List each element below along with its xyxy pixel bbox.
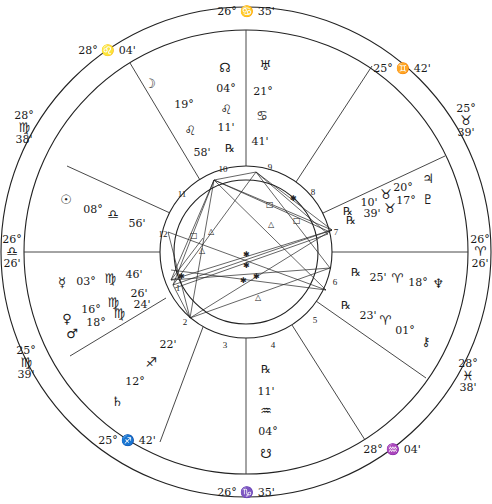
chart-wheel: □ ✱ □ △ □ △ △ ✱ ✱ ✱ ✱ ✱ △ 1 2 3 4 5 6 7 … (0, 0, 492, 504)
saturn-sign-icon: ♐ (145, 357, 157, 368)
chiron-min: 23' (359, 310, 376, 321)
cusp-label-house-10: 26° ♋ 35' (217, 6, 275, 17)
chiron-retro: ℞ (341, 300, 351, 311)
moon-deg: 19° (174, 99, 194, 110)
svg-text:8: 8 (311, 187, 316, 197)
cusp-label-house-9: 28° ♌ 04' (78, 45, 136, 56)
mars-min: 24' (133, 299, 150, 310)
venus-deg: 16° (81, 304, 101, 315)
mercury-deg: 03° (76, 276, 96, 287)
chiron-glyph-icon: ⚷ (421, 336, 431, 347)
svg-text:△: △ (208, 227, 215, 236)
sun-sign-icon: ♎ (107, 209, 119, 220)
cusp-label-house-12: 25°♉39' (456, 103, 476, 139)
moon-glyph-icon: ☽ (144, 78, 156, 89)
sun-glyph-icon: ☉ (60, 194, 72, 205)
mercury-glyph-icon: ☿ (58, 277, 66, 288)
svg-text:1: 1 (176, 283, 181, 293)
svg-text:□: □ (293, 216, 301, 225)
svg-text:✱: ✱ (178, 272, 185, 281)
cusp-label-house-8: 28°♍38' (14, 110, 34, 146)
saturn-min: 22' (159, 339, 176, 350)
svg-text:5: 5 (313, 315, 318, 325)
svg-text:□: □ (190, 231, 198, 240)
svg-text:✱: ✱ (243, 250, 250, 259)
cusp-label-house-5: 25° ♐ 42' (98, 435, 156, 446)
svg-text:✱: ✱ (240, 276, 247, 285)
snode-min: 11' (257, 386, 274, 397)
neptune-deg: 18° (408, 277, 428, 288)
neptune-min: 25' (369, 272, 386, 283)
neptune-sign-icon: ♈ (391, 273, 403, 284)
svg-text:3: 3 (223, 340, 228, 350)
moon-sign-icon: ♌ (184, 125, 196, 136)
cusp-label-house-4: 26° ♑ 35' (217, 487, 275, 498)
neptune-glyph-icon: ♆ (432, 278, 444, 289)
mars-deg: 18° (86, 317, 106, 328)
snode-sign-icon: ♒ (260, 405, 272, 416)
chiron-sign-icon: ♈ (379, 315, 391, 326)
cusp-label-house-6: 25°♍39' (16, 345, 36, 381)
svg-text:□: □ (266, 200, 274, 209)
svg-text:10: 10 (219, 164, 229, 174)
nnode-deg: 04° (216, 83, 236, 94)
jupiter-deg: 20° (393, 182, 413, 193)
svg-text:✱: ✱ (243, 261, 250, 270)
chiron-deg: 01° (395, 325, 415, 336)
cusp-label-house-3: 28° ♒ 04' (363, 444, 421, 455)
nnode-min: 11' (217, 122, 234, 133)
jupiter-glyph-icon: ♃ (422, 173, 434, 184)
nnode-glyph-icon: ☊ (219, 62, 231, 73)
aspect-lines (168, 172, 332, 318)
snode-glyph-icon: ☋ (260, 448, 272, 459)
svg-text:11: 11 (178, 189, 187, 199)
pluto-glyph-icon: ♇ (422, 194, 434, 205)
mercury-min: 46' (125, 269, 142, 280)
sun-min: 56' (128, 218, 145, 229)
saturn-glyph-icon: ♄ (111, 396, 123, 407)
nnode-sign-icon: ♌ (220, 104, 232, 115)
neptune-retro: ℞ (351, 267, 361, 278)
pluto-min: 39' (363, 208, 380, 219)
jupiter-sign-icon: ♉ (380, 189, 392, 200)
svg-text:2: 2 (183, 317, 188, 327)
svg-text:7: 7 (334, 227, 339, 237)
venus-glyph-icon: ♀ (62, 313, 72, 324)
svg-text:6: 6 (333, 277, 338, 287)
svg-text:✱: ✱ (253, 272, 260, 281)
uranus-deg: 21° (253, 86, 273, 97)
svg-text:✱: ✱ (290, 194, 297, 203)
moon-min: 58' (193, 147, 210, 158)
pluto-retro: ℞ (346, 215, 356, 226)
pluto-sign-icon: ♉ (384, 203, 396, 214)
svg-text:9: 9 (268, 162, 273, 172)
svg-text:△: △ (268, 220, 275, 229)
svg-text:△: △ (199, 246, 206, 255)
nnode-retro: ℞ (225, 143, 235, 154)
cusp-label-house-1: 26°♈26' (470, 234, 490, 270)
uranus-glyph-icon: ♅ (259, 60, 271, 71)
svg-text:12: 12 (159, 229, 168, 239)
saturn-deg: 12° (125, 376, 145, 387)
sun-deg: 08° (83, 204, 103, 215)
cusp-label-house-11: 25° ♊ 42' (373, 63, 431, 74)
snode-retro: ℞ (261, 364, 271, 375)
cusp-label-house-2: 28°♓38' (458, 358, 478, 394)
svg-text:4: 4 (271, 340, 276, 350)
svg-text:△: △ (255, 293, 262, 302)
uranus-min: 41' (251, 136, 268, 147)
cusp-label-house-7: 26°♎26' (2, 234, 22, 270)
snode-deg: 04° (258, 426, 278, 437)
mercury-sign-icon: ♍ (104, 273, 116, 284)
uranus-sign-icon: ♋ (256, 110, 268, 121)
pluto-deg: 17° (396, 195, 416, 206)
mars-glyph-icon: ♂ (66, 328, 78, 339)
mars-sign-icon: ♍ (113, 308, 125, 319)
